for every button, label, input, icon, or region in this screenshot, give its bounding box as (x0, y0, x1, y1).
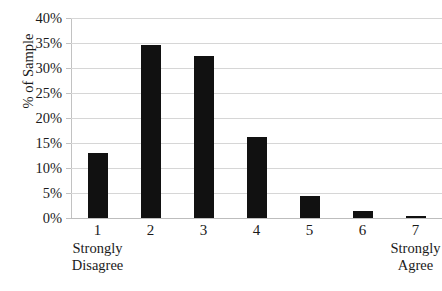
x-tick-label: 6 (336, 221, 389, 240)
y-tick-mark (66, 93, 71, 94)
y-tick-mark (66, 43, 71, 44)
y-tick-mark (66, 143, 71, 144)
y-tick-mark (66, 18, 71, 19)
x-anchor-label-line2: Agree (389, 257, 442, 274)
y-tick-mark (66, 118, 71, 119)
x-tick-label: 5 (283, 221, 336, 240)
y-tick-label: 35% (16, 36, 62, 50)
bar (406, 216, 426, 218)
y-tick-mark (66, 193, 71, 194)
bar (88, 153, 108, 219)
y-tick-label: 5% (16, 186, 62, 200)
bar (300, 196, 320, 218)
x-tick-label: 1 (71, 221, 124, 240)
x-label-group: 3 (177, 221, 230, 240)
bar (353, 211, 373, 218)
x-tick-label: 4 (230, 221, 283, 240)
y-tick-label: 0% (16, 211, 62, 225)
x-anchor-label-line2: Disagree (71, 257, 124, 274)
bar (247, 137, 267, 218)
x-anchor-label-line1: Strongly (71, 240, 124, 257)
x-tick-label: 7 (389, 221, 442, 240)
x-label-group: 7StronglyAgree (389, 221, 442, 274)
y-axis-tick-labels: 0%5%10%15%20%25%30%35%40% (18, 18, 66, 218)
y-tick-label: 30% (16, 61, 62, 75)
y-tick-label: 40% (16, 11, 62, 25)
x-label-group: 2 (124, 221, 177, 240)
bar-series (71, 18, 442, 218)
x-tick-label: 2 (124, 221, 177, 240)
y-tick-label: 10% (16, 161, 62, 175)
x-axis-tick-labels: 1StronglyDisagree234567StronglyAgree (71, 221, 442, 291)
x-tick-label: 3 (177, 221, 230, 240)
plot-area (71, 18, 442, 218)
x-label-group: 4 (230, 221, 283, 240)
y-tick-label: 20% (16, 111, 62, 125)
bar (194, 56, 214, 218)
y-tick-label: 15% (16, 136, 62, 150)
y-tick-mark (66, 218, 71, 219)
bar-chart: % of Sample 0%5%10%15%20%25%30%35%40% 1S… (0, 0, 442, 291)
gridline (71, 218, 442, 219)
x-label-group: 6 (336, 221, 389, 240)
x-label-group: 1StronglyDisagree (71, 221, 124, 274)
x-anchor-label-line1: Strongly (389, 240, 442, 257)
y-tick-mark (66, 168, 71, 169)
bar (141, 45, 161, 218)
y-tick-mark (66, 68, 71, 69)
x-label-group: 5 (283, 221, 336, 240)
y-tick-label: 25% (16, 86, 62, 100)
